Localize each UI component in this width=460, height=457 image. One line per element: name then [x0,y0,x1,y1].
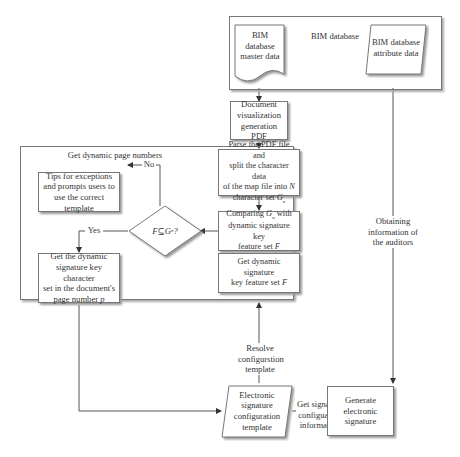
edge-label-obtaining: Obtaining information of the auditors [368,216,418,248]
get-feature-set-node: Get dynamic signature key feature set F [218,253,300,293]
edge-label-resolve: Resolve configurstion template [238,343,282,375]
edge-label-no: No [142,159,156,170]
parse-pdf-label: Parse the PDF file and split the charact… [222,140,296,204]
generate-signature-node: Generate electronic signature [327,386,394,436]
bim-database-group-label: BIM database [300,31,370,42]
config-template-node: Electronic signature configuration templ… [221,385,293,439]
master-data-node: BIM database master data [234,24,286,84]
decision-node: F⊆Gn? [128,205,202,257]
decision-label: F⊆Gn? [138,221,192,241]
get-feature-set-label: Get dynamic signature key feature set F [222,257,296,289]
master-data-label: BIM database master data [237,32,283,60]
tips-node: Tips for exceptions and prompts users to… [38,172,120,212]
edge-label-yes: Yes [85,225,103,236]
get-charset-label: Get the dynamic signature key character … [42,251,116,305]
config-template-label: Electronic signature configuration templ… [229,389,285,433]
generate-signature-label: Generate electronic signature [331,395,390,427]
compare-label: Comparing Gn with dynamic signature key … [222,209,296,252]
compare-node: Comparing Gn with dynamic signature key … [218,211,300,251]
get-charset-node: Get the dynamic signature key character … [38,253,120,303]
tips-label: Tips for exceptions and prompts users to… [42,171,116,214]
attribute-data-node: BIM database attribute data [365,24,427,76]
document-visualization-label: Document visualization generation PDF [234,99,284,142]
attribute-data-label: BIM database attribute data [371,34,421,62]
parse-pdf-node: Parse the PDF file and split the charact… [218,149,300,196]
document-visualization-node: Document visualization generation PDF [230,101,288,140]
